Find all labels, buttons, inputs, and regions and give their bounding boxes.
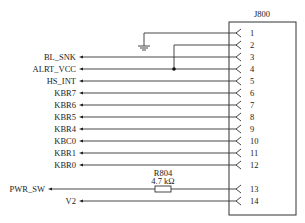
signal-kbr0: KBR0 (54, 160, 236, 170)
socket-chevron-icon (236, 197, 241, 205)
socket-chevron-icon (236, 161, 241, 169)
signal-label: BL_SNK (44, 52, 77, 62)
pin-14: 14 (236, 196, 259, 206)
signal-kbr6: KBR6 (54, 100, 236, 110)
pin-number: 5 (250, 76, 254, 86)
pin-number: 12 (250, 160, 259, 170)
signal-v2: V2 (66, 196, 236, 206)
pin-6: 6 (236, 88, 254, 98)
arrow-left-icon (79, 91, 83, 94)
resistor-body (155, 186, 171, 192)
socket-chevron-icon (236, 101, 241, 109)
arrow-left-icon (79, 151, 83, 154)
arrow-left-icon (79, 163, 83, 166)
pin-number: 7 (250, 100, 254, 110)
arrow-left-icon (79, 67, 83, 70)
pin-number: 6 (250, 88, 254, 98)
signal-nets: BL_SNKALRT_VCCHS_INTKBR7KBR6KBR5KBR4KBC0… (10, 52, 236, 206)
pin-number: 11 (250, 148, 258, 158)
signal-alrt-vcc: ALRT_VCC (33, 64, 236, 74)
connector-ref-label: J800 (254, 9, 270, 19)
pin-number: 14 (250, 196, 259, 206)
signal-pwr-sw: PWR_SW (10, 184, 236, 194)
signal-kbr1: KBR1 (54, 148, 236, 158)
arrow-left-icon (48, 187, 52, 190)
pin-10: 10 (236, 136, 259, 146)
arrow-left-icon (79, 115, 83, 118)
ground-connection (138, 33, 237, 50)
signal-label: KBR6 (54, 100, 76, 110)
pin-number: 10 (250, 136, 259, 146)
pin-2: 2 (236, 40, 254, 50)
ground-wire (144, 33, 237, 46)
signal-label: KBR5 (54, 112, 76, 122)
socket-chevron-icon (236, 149, 241, 157)
pin-1: 1 (236, 28, 254, 38)
resistor-r804: R804 4.7 kΩ (151, 168, 174, 192)
signal-label: KBC0 (54, 136, 76, 146)
signal-label: ALRT_VCC (33, 64, 77, 74)
pin-11: 11 (236, 148, 258, 158)
socket-chevron-icon (236, 113, 241, 121)
pin-number: 2 (250, 40, 254, 50)
schematic-diagram: J800 1234567891011121314 BL_SNKALRT_VCCH… (0, 0, 305, 223)
signal-label: KBR4 (54, 124, 76, 134)
socket-chevron-icon (236, 185, 241, 193)
pin2-to-pin4-link (172, 45, 237, 71)
pin-8: 8 (236, 112, 254, 122)
signal-kbr5: KBR5 (54, 112, 236, 122)
pin-4: 4 (236, 64, 255, 74)
signal-kbr4: KBR4 (54, 124, 236, 134)
pin-5: 5 (236, 76, 254, 86)
ground-icon (138, 46, 150, 50)
connector-pins: 1234567891011121314 (236, 28, 259, 206)
arrow-left-icon (79, 79, 83, 82)
pin-3: 3 (236, 52, 254, 62)
socket-chevron-icon (236, 137, 241, 145)
pin-number: 3 (250, 52, 254, 62)
pin-12: 12 (236, 160, 259, 170)
signal-label: HS_INT (47, 76, 77, 86)
socket-chevron-icon (236, 77, 241, 85)
junction-dot (172, 67, 176, 71)
pin-7: 7 (236, 100, 254, 110)
signal-label: KBR1 (54, 148, 76, 158)
pin-number: 4 (250, 64, 255, 74)
signal-kbr7: KBR7 (54, 88, 236, 98)
pin-number: 1 (250, 28, 254, 38)
pin-number: 9 (250, 124, 254, 134)
signal-kbc0: KBC0 (54, 136, 236, 146)
arrow-left-icon (79, 127, 83, 130)
socket-chevron-icon (236, 89, 241, 97)
pin-9: 9 (236, 124, 254, 134)
arrow-left-icon (79, 55, 83, 58)
socket-chevron-icon (236, 53, 241, 61)
signal-label: KBR7 (54, 88, 76, 98)
socket-chevron-icon (236, 125, 241, 133)
socket-chevron-icon (236, 65, 241, 73)
signal-label: V2 (66, 196, 76, 206)
signal-hs-int: HS_INT (47, 76, 236, 86)
pin-13: 13 (236, 184, 259, 194)
pin-number: 8 (250, 112, 254, 122)
signal-bl-snk: BL_SNK (44, 52, 236, 62)
signal-label: PWR_SW (10, 184, 45, 194)
arrow-left-icon (79, 103, 83, 106)
resistor-value-label: 4.7 kΩ (151, 176, 174, 186)
arrow-left-icon (79, 199, 83, 202)
pin-number: 13 (250, 184, 259, 194)
signal-label: KBR0 (54, 160, 76, 170)
arrow-left-icon (79, 139, 83, 142)
